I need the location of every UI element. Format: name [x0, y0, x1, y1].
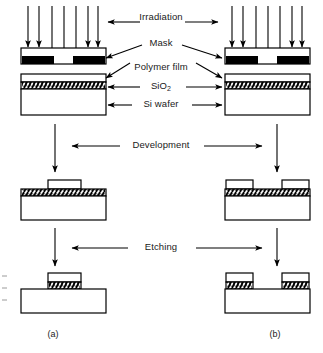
label-sio2-text: SiO: [151, 80, 167, 91]
label-etching: Etching: [145, 242, 177, 252]
label-sio2: SiO2: [151, 81, 171, 91]
page-edge-marks: [2, 276, 7, 300]
substrate-stack-left: [21, 74, 106, 115]
leader-polymer-left: [106, 63, 130, 78]
label-irradiation: Irradiation: [139, 12, 182, 22]
mask-plate-right: [225, 48, 310, 64]
label-development: Development: [132, 140, 189, 150]
etched-stack-right: [225, 273, 310, 313]
substrate-stack-right: [225, 74, 310, 115]
caption-b: (b): [270, 329, 281, 339]
label-sio2-subscript: 2: [167, 85, 171, 92]
developed-stack-left: [21, 180, 106, 220]
mask-plate-left: [21, 48, 106, 64]
figure-canvas: Irradiation Mask Polymer film SiO2 Si wa…: [0, 0, 323, 353]
leader-mask-right: [182, 45, 222, 58]
developed-stack-right: [225, 180, 310, 220]
label-mask: Mask: [149, 38, 172, 48]
label-polymer-film: Polymer film: [134, 62, 187, 72]
label-si-wafer: Si wafer: [143, 99, 178, 109]
leader-polymer-right: [196, 63, 222, 78]
lithography-diagram: [0, 0, 323, 353]
caption-a: (a): [48, 329, 59, 339]
leader-mask-left: [106, 45, 142, 58]
etched-stack-left: [21, 273, 106, 313]
